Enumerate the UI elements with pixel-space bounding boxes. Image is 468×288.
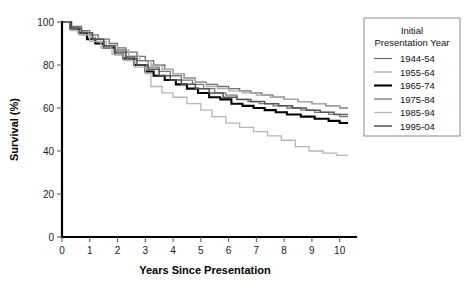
legend-label-1944-54: 1944-54 <box>400 53 435 64</box>
y-tick-label: 100 <box>37 17 54 28</box>
x-tick-label: 1 <box>87 245 93 256</box>
x-tick-label: 2 <box>115 245 121 256</box>
y-axis-title: Survival (%) <box>8 98 20 161</box>
legend-label-1965-74: 1965-74 <box>400 80 435 91</box>
legend-title-line1: Initial <box>401 25 423 36</box>
survival-curve-1975-84 <box>62 22 348 117</box>
y-tick-label: 20 <box>43 189 55 200</box>
x-axis-title: Years Since Presentation <box>139 264 271 276</box>
y-tick-label: 60 <box>43 103 55 114</box>
x-tick-label: 6 <box>226 245 232 256</box>
survival-chart-figure: 020406080100012345678910Years Since Pres… <box>0 0 468 288</box>
x-tick-label: 0 <box>59 245 65 256</box>
legend-label-1975-84: 1975-84 <box>400 94 435 105</box>
chart-legend: InitialPresentation Year1944-541955-6419… <box>364 18 460 136</box>
x-tick-label: 8 <box>281 245 287 256</box>
survival-curve-1955-64 <box>62 22 348 108</box>
x-tick-label: 5 <box>198 245 204 256</box>
y-tick-label: 0 <box>48 232 54 243</box>
chart-svg: 020406080100012345678910Years Since Pres… <box>0 0 468 288</box>
curve-group <box>62 22 348 155</box>
survival-curve-1944-54 <box>62 22 348 108</box>
x-tick-label: 4 <box>170 245 176 256</box>
x-tick-label: 3 <box>143 245 149 256</box>
x-tick-label: 10 <box>334 245 346 256</box>
legend-label-1995-04: 1995-04 <box>400 121 435 132</box>
survival-curve-1995-04 <box>62 22 348 114</box>
legend-label-1985-94: 1985-94 <box>400 107 435 118</box>
y-tick-label: 40 <box>43 146 55 157</box>
x-tick-label: 7 <box>254 245 260 256</box>
x-tick-label: 9 <box>309 245 315 256</box>
legend-label-1955-64: 1955-64 <box>400 67 435 78</box>
y-tick-label: 80 <box>43 60 55 71</box>
legend-title-line2: Presentation Year <box>374 37 449 48</box>
